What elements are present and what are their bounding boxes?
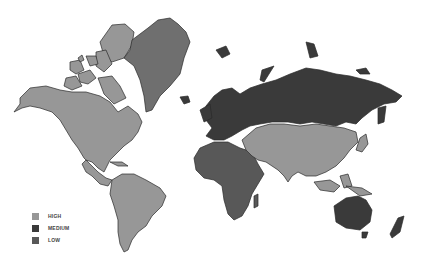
region-australia <box>334 196 372 238</box>
legend-item-high: HIGH <box>32 210 69 222</box>
legend-label-high: HIGH <box>48 213 61 219</box>
legend-item-medium: MEDIUM <box>32 222 69 234</box>
legend-swatch-low <box>32 237 39 244</box>
region-caribbean <box>110 162 128 166</box>
region-south-america <box>110 174 166 252</box>
region-asia <box>242 124 372 196</box>
legend-swatch-medium <box>32 225 39 232</box>
region-north-america <box>14 86 142 186</box>
region-europe-russia <box>200 42 402 140</box>
legend-swatch-high <box>32 213 39 220</box>
legend-item-low: LOW <box>32 234 69 246</box>
region-new-zealand <box>390 216 404 238</box>
region-iceland <box>180 96 190 104</box>
legend-label-low: LOW <box>48 237 60 243</box>
legend-label-medium: MEDIUM <box>48 225 69 231</box>
map-legend: HIGH MEDIUM LOW <box>32 210 69 246</box>
